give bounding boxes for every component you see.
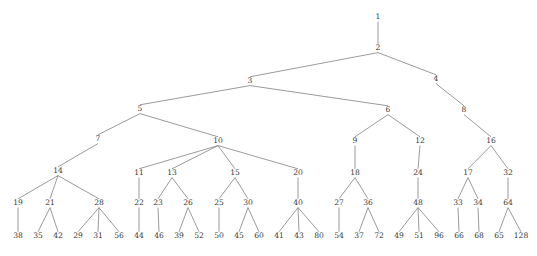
tree-node-label: 12 — [415, 136, 425, 145]
tree-node-label: 51 — [414, 231, 424, 240]
tree-node-label: 20 — [293, 168, 303, 177]
tree-node-label: 13 — [167, 168, 177, 177]
tree-node-label: 21 — [45, 198, 55, 207]
tree-node-label: 33 — [453, 198, 463, 207]
tree-node-label: 43 — [294, 231, 304, 240]
tree-node-label: 45 — [234, 231, 244, 240]
tree-node-label: 66 — [454, 231, 464, 240]
tree-node-label: 72 — [374, 231, 384, 240]
figure-background — [0, 0, 537, 256]
tree-node-label: 17 — [463, 168, 473, 177]
tree-node-label: 50 — [214, 231, 224, 240]
tree-node-label: 56 — [114, 231, 124, 240]
tree-node-label: 34 — [473, 198, 483, 207]
tree-node-label: 29 — [73, 231, 83, 240]
tree-node-label: 49 — [394, 231, 404, 240]
tree-node-label: 38 — [13, 231, 23, 240]
tree-node-label: 80 — [314, 231, 324, 240]
tree-node-label: 3 — [248, 76, 253, 85]
tree-node-label: 24 — [413, 168, 423, 177]
tree-node-label: 25 — [214, 198, 224, 207]
tree-node-label: 9 — [353, 136, 358, 145]
tree-node-label: 44 — [134, 231, 144, 240]
tree-node-label: 7 — [96, 134, 101, 143]
tree-node-label: 23 — [153, 198, 163, 207]
tree-node-label: 42 — [53, 231, 63, 240]
tree-node-label: 64 — [503, 198, 513, 207]
tree-node-label: 18 — [350, 168, 360, 177]
tree-node-label: 65 — [494, 231, 504, 240]
tree-node-label: 19 — [13, 198, 23, 207]
tree-node-label: 4 — [434, 74, 439, 83]
tree-node-label: 52 — [194, 231, 204, 240]
tree-node-label: 36 — [363, 198, 373, 207]
tree-node-label: 46 — [154, 231, 164, 240]
tree-node-label: 37 — [354, 231, 364, 240]
tree-node-label: 5 — [138, 104, 143, 113]
tree-node-label: 10 — [213, 136, 223, 145]
tree-node-label: 68 — [474, 231, 484, 240]
tree-node-label: 32 — [503, 168, 513, 177]
tree-node-label: 28 — [94, 198, 104, 207]
tree-node-label: 6 — [386, 105, 391, 114]
tree-node-label: 26 — [183, 198, 193, 207]
tree-node-label: 39 — [174, 231, 184, 240]
tree-node-label: 48 — [413, 198, 423, 207]
tree-node-label: 1 — [376, 12, 381, 21]
tree-node-label: 41 — [274, 231, 284, 240]
tree-node-label: 31 — [93, 231, 103, 240]
tree-node-label: 60 — [254, 231, 264, 240]
tree-diagram: 1234568710912161411131520182417321921282… — [0, 0, 537, 256]
tree-node-label: 22 — [134, 198, 144, 207]
tree-node-label: 27 — [334, 198, 344, 207]
tree-node-label: 14 — [53, 166, 63, 175]
tree-node-label: 96 — [434, 231, 444, 240]
tree-node-label: 35 — [33, 231, 43, 240]
tree-node-label: 11 — [134, 168, 144, 177]
tree-node-label: 2 — [376, 43, 381, 52]
tree-node-label: 8 — [462, 105, 467, 114]
tree-node-label: 128 — [514, 231, 529, 240]
tree-node-label: 15 — [230, 168, 240, 177]
tree-node-label: 54 — [334, 231, 344, 240]
tree-node-label: 16 — [486, 136, 496, 145]
tree-node-label: 30 — [243, 198, 253, 207]
tree-node-label: 40 — [293, 198, 303, 207]
